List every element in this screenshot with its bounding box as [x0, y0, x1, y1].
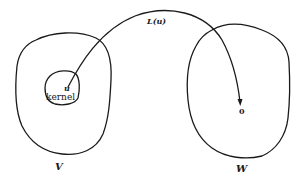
kernel-mapping-diagram: V kernel u W L(u) 0 — [0, 0, 299, 182]
kernel-label: kernel — [46, 92, 75, 102]
arrow-label: L(u) — [146, 16, 166, 26]
set-v-label: V — [55, 161, 64, 172]
arrowhead-icon — [238, 99, 243, 106]
set-w-label: W — [236, 163, 249, 174]
point-zero-label: 0 — [239, 106, 245, 116]
